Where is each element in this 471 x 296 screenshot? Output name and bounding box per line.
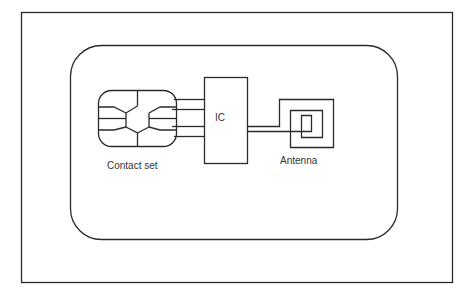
card-body xyxy=(71,46,398,240)
contact-set-chip xyxy=(99,91,177,147)
antenna-label: Antenna xyxy=(280,155,318,166)
antenna-winding xyxy=(248,100,334,148)
ic-label: IC xyxy=(215,112,225,123)
smart-card-diagram: Contact set IC Antenna xyxy=(0,0,471,296)
chip-contact-line xyxy=(138,127,150,133)
chip-contact-line xyxy=(126,91,138,114)
chip-contact-line xyxy=(126,127,138,147)
chip-contact-line xyxy=(99,127,127,130)
contact-set-label: Contact set xyxy=(107,160,158,171)
outer-frame xyxy=(22,13,453,283)
ic-block xyxy=(205,78,248,164)
chip-contact-line xyxy=(149,127,177,130)
chip-contact-line xyxy=(99,107,127,113)
antenna-coil xyxy=(248,100,334,148)
